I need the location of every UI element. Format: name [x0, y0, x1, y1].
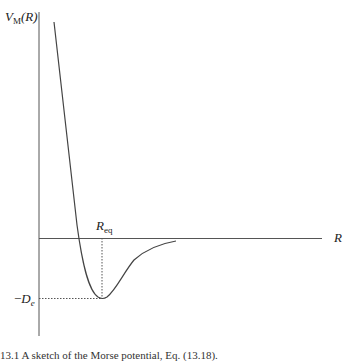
de-label-sub: e — [31, 298, 35, 308]
req-label-main: R — [96, 218, 104, 233]
de-label-main: D — [21, 291, 30, 306]
req-label-sub: eq — [104, 225, 113, 235]
y-axis-label: VM(R) — [5, 10, 38, 26]
y-label-main: V — [5, 9, 13, 24]
de-label: −De — [14, 292, 35, 308]
y-label-arg: (R) — [21, 9, 38, 24]
x-label-text: R — [334, 230, 342, 245]
figure-caption: 13.1 A sketch of the Morse potential, Eq… — [0, 349, 218, 361]
y-label-sub: M — [13, 16, 21, 26]
x-axis-label: R — [334, 231, 342, 244]
req-label: Req — [96, 219, 112, 235]
potential-curve — [54, 22, 176, 299]
